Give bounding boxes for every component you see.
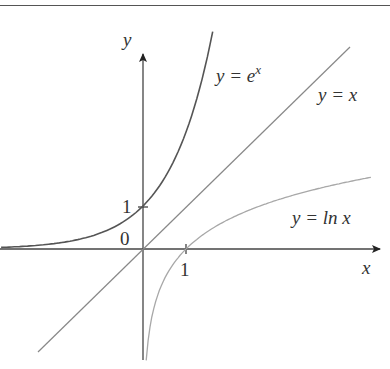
- label-exp: y = ex: [214, 62, 261, 86]
- x-axis-label: x: [361, 257, 371, 278]
- curve-exp: [1, 32, 213, 248]
- label-ln: y = ln x: [290, 207, 351, 228]
- origin-label: 0: [120, 228, 130, 249]
- x-tick-label-1: 1: [180, 259, 190, 280]
- line-y-equals-x: [38, 47, 350, 352]
- y-axis-label: y: [121, 29, 132, 50]
- y-tick-label-1: 1: [122, 196, 132, 217]
- function-plot: y x 0 1 1 y = ex y = x y = ln x: [0, 0, 390, 369]
- label-y-equals-x: y = x: [316, 84, 358, 105]
